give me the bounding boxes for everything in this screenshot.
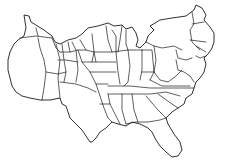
us-cartogram-map <box>0 0 228 167</box>
country-outline <box>8 5 214 157</box>
